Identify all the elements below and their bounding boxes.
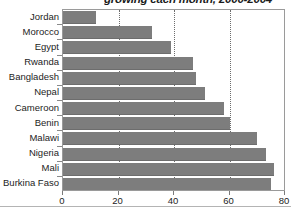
x-tick-label: 20 (98, 195, 138, 206)
bar (63, 87, 205, 100)
category-label: Malawi (0, 133, 59, 143)
plot-area (62, 9, 285, 191)
category-tick (57, 100, 62, 101)
bar-row (63, 72, 285, 85)
bar-row (63, 11, 285, 24)
bar (63, 148, 266, 161)
category-tick (57, 39, 62, 40)
bar (63, 102, 224, 115)
bar (63, 11, 96, 24)
category-tick (57, 146, 62, 147)
x-tick-label: 0 (42, 195, 82, 206)
category-label: Morocco (0, 27, 59, 37)
category-label: Benin (0, 118, 59, 128)
x-tick-label: 40 (153, 195, 193, 206)
bar-row (63, 57, 285, 70)
category-label: Rwanda (0, 57, 59, 67)
bar-row (63, 117, 285, 130)
category-label: Cameroon (0, 103, 59, 113)
bar-row (63, 163, 285, 176)
bar (63, 26, 152, 39)
bar (63, 57, 193, 70)
category-tick (57, 85, 62, 86)
bar-row (63, 87, 285, 100)
category-tick (57, 55, 62, 56)
bar-series (63, 10, 284, 190)
category-label: Nigeria (0, 148, 59, 158)
category-tick (57, 70, 62, 71)
category-label: Egypt (0, 42, 59, 52)
bar-row (63, 102, 285, 115)
category-tick (57, 24, 62, 25)
bar-row (63, 178, 285, 191)
x-tick-label: 80 (264, 195, 291, 206)
bar (63, 41, 171, 54)
category-tick (57, 161, 62, 162)
category-label: Mali (0, 163, 59, 173)
category-tick (57, 115, 62, 116)
chart-title: growing each month, 2000-2004 (104, 0, 291, 7)
x-tick-label: 60 (209, 195, 249, 206)
category-label: Nepal (0, 87, 59, 97)
bar (63, 178, 271, 191)
category-label: Bangladesh (0, 72, 59, 82)
page-rule (0, 206, 291, 207)
bar-row (63, 148, 285, 161)
bar-row (63, 26, 285, 39)
chart-figure: growing each month, 2000-2004 JordanMoro… (0, 0, 291, 209)
bar (63, 132, 257, 145)
category-label: Jordan (0, 12, 59, 22)
bar (63, 163, 274, 176)
category-label: Burkina Faso (0, 178, 59, 188)
bar-row (63, 132, 285, 145)
bar (63, 72, 196, 85)
bar (63, 117, 230, 130)
category-tick (57, 176, 62, 177)
category-tick (57, 130, 62, 131)
bar-row (63, 41, 285, 54)
